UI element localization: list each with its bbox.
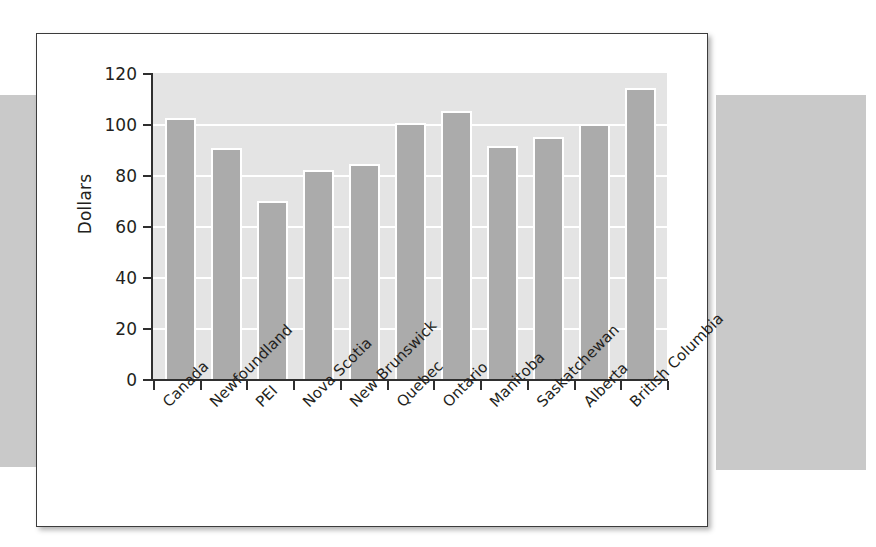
bar-manitoba	[487, 146, 518, 379]
bar-chart: Dollars 120 100 80 60 40 20 0	[37, 34, 709, 528]
y-tick-label-20: 20	[93, 319, 137, 339]
y-axis-line	[151, 73, 153, 381]
x-tick-mark-11	[667, 381, 669, 390]
y-tick-label-80: 80	[93, 166, 137, 186]
x-axis-labels: CanadaNewfoundlandPEINova ScotiaNew Brun…	[153, 394, 667, 524]
y-tick-label-40: 40	[93, 268, 137, 288]
bar-british-columbia	[625, 88, 656, 379]
x-tick-mark-4	[340, 381, 342, 390]
background-band-right	[716, 95, 866, 470]
y-axis-title: Dollars	[75, 134, 95, 274]
bar-newfoundland	[211, 148, 242, 379]
x-tick-mark-0	[153, 381, 155, 390]
figure-card: Dollars 120 100 80 60 40 20 0	[36, 33, 708, 527]
x-axis-label-pei: PEI	[252, 382, 281, 411]
y-tick-label-60: 60	[93, 217, 137, 237]
x-tick-mark-3	[293, 381, 295, 390]
y-tick-label-0: 0	[93, 370, 137, 390]
bar-ontario	[441, 111, 472, 379]
y-tick-label-120: 120	[93, 64, 137, 84]
bar-canada	[165, 118, 196, 379]
bar-nova-scotia	[303, 170, 334, 379]
x-tick-mark-7	[480, 381, 482, 390]
bar-saskatchewan	[533, 137, 564, 379]
y-tick-label-100: 100	[93, 115, 137, 135]
